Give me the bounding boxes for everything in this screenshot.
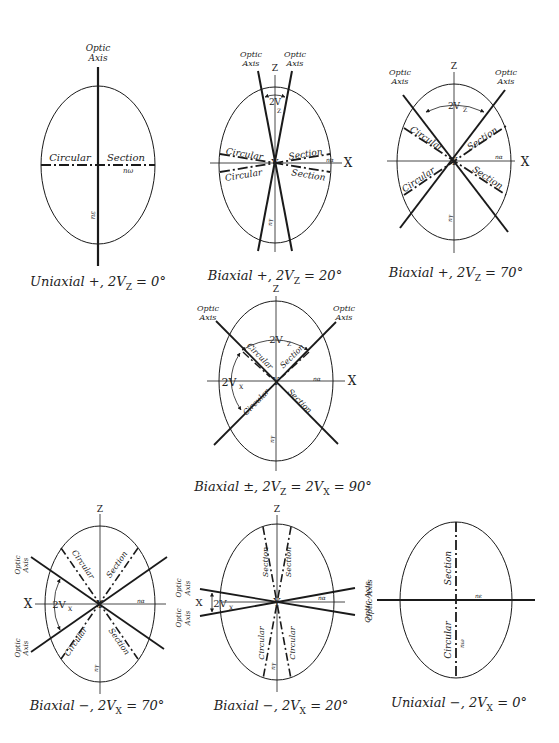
section-label: Section [288,146,324,161]
n-alpha-label: nα [313,375,321,382]
optic-axis-label: Optic [495,68,517,77]
optic-axis-label: Optic [240,50,262,59]
angle-label-z: 2V [269,334,283,345]
n-e-label: nε [475,592,482,599]
section-label: Section [471,164,505,191]
angle-label-x: 2V [222,376,238,389]
y-label: Y [95,598,104,611]
y-label: Y [449,155,458,168]
circular-label: Circular [224,167,263,183]
section-label: Section [261,547,270,577]
svg-text:Axis: Axis [22,640,30,656]
panel-biaxial-positive-70: Z X Y 2V Z Optic Axis Optic Axis Circula… [387,61,530,253]
svg-text:Axis: Axis [242,59,260,68]
caption-biaxial-negative-70: Biaxial −, 2VX = 70° [30,698,164,716]
optic-axis-label: Optic [14,555,22,574]
caption-text: Biaxial +, 2V [208,268,294,283]
svg-text:Axis: Axis [87,53,107,63]
n-alpha-label: nα [137,597,145,604]
angle-label: 2V [213,598,227,609]
circular-label: Circular [443,621,453,659]
caption-text: Biaxial −, 2V [30,698,116,713]
panel-biaxial-negative-20: Z X Y 2V X Optic Axis Optic Axis Optic A… [175,504,372,692]
optic-axis-label: Optic [86,43,111,53]
panel-uniaxial-negative: Optic Axis Section Circular nω nε [365,522,535,678]
caption-value: = 0° [132,274,166,289]
svg-text:Axis: Axis [391,77,409,86]
caption-biaxial-neutral-90: Biaxial ±, 2VZ = 2VX = 90° [194,479,372,497]
caption-uniaxial-negative: Uniaxial −, 2VX = 0° [391,695,527,713]
caption-text: Biaxial −, 2V [214,698,300,713]
caption-text: Uniaxial +, 2V [30,274,126,289]
circular-label: Circular [241,386,272,417]
svg-text:Axis: Axis [184,580,192,596]
svg-text:Z: Z [463,106,467,113]
caption-value: = 0° [493,695,527,710]
optic-axis-label: Optic [389,68,411,77]
x-label: X [195,597,203,608]
optic-axis-label: Optic [333,304,355,313]
n-alpha-label: nα [326,156,334,163]
n-gamma-label: nγ [446,214,454,222]
n-omega-label: nω [458,639,465,648]
n-e-label: nε [89,211,97,220]
svg-text:Axis: Axis [184,610,192,626]
x-label: X [344,156,353,170]
section-label: Section [291,167,327,182]
optic-axis-label: Optic Axis [365,579,374,620]
angle-label: 2V [269,97,282,107]
svg-text:X: X [239,383,244,390]
circular-label: Circular [288,625,297,659]
n-gamma-label: nγ [92,664,100,672]
circular-label: Circular [70,548,97,581]
svg-text:Axis: Axis [199,313,217,322]
panel-uniaxial-positive: Optic Axis Circular Section nω nε [41,43,155,266]
n-gamma-label: nγ [266,218,274,226]
caption-text: Biaxial ±, 2V [194,479,280,494]
z-label: Z [274,504,280,514]
section-label: Section [107,152,145,163]
angle-label: 2V [52,599,66,610]
optic-axis-label: Optic [197,304,219,313]
svg-text:Axis: Axis [286,59,304,68]
caption-value: = 70° [122,698,164,713]
caption-value: = 20° [306,698,348,713]
caption-biaxial-positive-70: Biaxial +, 2VZ = 70° [389,265,523,283]
caption-uniaxial-positive: Uniaxial +, 2VZ = 0° [30,274,166,292]
y-label: Y [271,375,280,388]
panel-biaxial-positive-20: Z X Y 2V Z Optic Axis Optic Axis Circula… [210,50,353,252]
n-gamma-label: nγ [269,662,277,670]
caption-value: = 70° [481,265,523,280]
svg-text:Z: Z [287,340,291,347]
caption-biaxial-positive-20: Biaxial +, 2VZ = 20° [208,268,342,286]
svg-text:Axis: Axis [497,77,515,86]
z-label: Z [272,63,278,73]
circular-label: Circular [225,146,264,162]
n-gamma-label: nγ [268,435,276,443]
panel-biaxial-negative-70: Z X Y 2V X Optic Axis Optic Axis Circula… [14,504,167,694]
svg-text:Z: Z [277,107,281,114]
indicatrix-figure: Optic Axis Circular Section nω nε Z X Y … [0,0,559,743]
y-label: Y [272,596,281,609]
circular-label: Circular [408,124,445,153]
caption-value: = 20° [300,268,342,283]
z-label: Z [451,61,457,71]
circular-label: Circular [400,165,437,195]
optic-axis-label: Optic [284,50,306,59]
section-label: Section [286,387,314,415]
x-label: X [348,374,357,388]
caption-value: = 90° [330,479,372,494]
section-label: Section [465,125,499,153]
section-label: Section [443,551,453,585]
circular-label: Circular [63,624,90,657]
angle-label: 2V [448,101,461,111]
optic-axis-label: Optic [175,608,183,627]
caption-biaxial-negative-20: Biaxial −, 2VX = 20° [214,698,348,716]
svg-text:X: X [229,604,234,611]
y-label: Y [270,157,279,170]
caption-text: Uniaxial −, 2V [391,695,487,710]
caption-value: = 2V [286,479,323,494]
panel-biaxial-neutral-90: Z X Y 2V Z 2V X Optic Axis Optic Axis Ci… [197,284,357,471]
circular-label: Circular [257,625,266,659]
section-label: Section [284,547,293,577]
